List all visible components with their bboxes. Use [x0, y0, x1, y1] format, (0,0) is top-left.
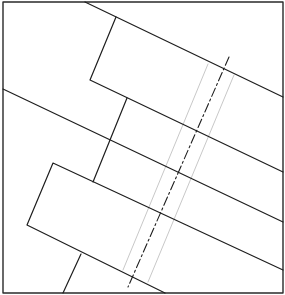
middle-band-edge [3, 89, 283, 222]
lower-block-outline [27, 163, 283, 293]
diagram-frame [3, 2, 283, 293]
solid-outline-lines [3, 2, 283, 293]
lower-connector [63, 254, 81, 293]
diagram-canvas [0, 0, 285, 295]
middle-connector [93, 98, 127, 182]
top-band-edge [85, 2, 283, 97]
upper-block-outline [90, 17, 283, 172]
dash-dot-centerline [128, 57, 229, 287]
